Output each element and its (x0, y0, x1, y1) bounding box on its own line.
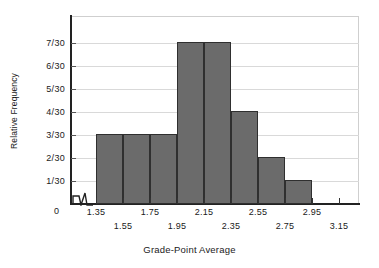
x-axis-title: Grade-Point Average (0, 244, 379, 255)
x-tick-label: 1.75 (141, 207, 160, 217)
y-tick-label: 3/30 (46, 130, 65, 140)
y-tick-mark (71, 43, 76, 44)
axis-break-icon (72, 192, 94, 206)
x-tick-label: 1.35 (87, 207, 106, 217)
x-tick-label: 2.95 (303, 207, 322, 217)
y-tick-mark (71, 89, 76, 90)
y-tick-mark (71, 66, 76, 67)
y-tick-label: 4/30 (46, 107, 65, 117)
x-tick-mark (123, 198, 124, 204)
x-tick-mark (204, 198, 205, 204)
bar (285, 180, 312, 204)
bar (258, 157, 285, 204)
y-tick-label: 1/30 (46, 176, 65, 186)
x-tick-mark (285, 198, 286, 204)
x-tick-label: 2.15 (195, 207, 214, 217)
y-tick-label: 6/30 (46, 61, 65, 71)
x-tick-mark (231, 198, 232, 204)
x-tick-label: 2.35 (222, 221, 241, 231)
x-tick-mark (177, 198, 178, 204)
x-tick-mark (339, 198, 340, 204)
y-tick-mark (71, 158, 76, 159)
bar (204, 42, 231, 204)
histogram-chart: Relative Frequency 1/302/303/304/305/306… (0, 0, 379, 268)
bar-series (96, 16, 312, 204)
x-tick-label: 1.55 (114, 221, 133, 231)
y-tick-mark (71, 181, 76, 182)
x-tick-label: 3.15 (330, 221, 349, 231)
x-tick-label: 2.55 (249, 207, 268, 217)
x-tick-mark (96, 198, 97, 204)
bar (177, 42, 204, 204)
x-tick-label: 1.95 (168, 221, 187, 231)
y-tick-mark (71, 112, 76, 113)
y-tick-label: 2/30 (46, 153, 65, 163)
y-tick-label: 7/30 (46, 38, 65, 48)
x-tick-mark (312, 198, 313, 204)
y-axis-title: Relative Frequency (7, 16, 21, 205)
y-origin-label: 0 (54, 206, 59, 216)
y-axis-title-text: Relative Frequency (9, 73, 19, 149)
y-tick-mark (71, 135, 76, 136)
bar (150, 134, 177, 204)
x-tick-label: 2.75 (276, 221, 295, 231)
y-tick-label: 5/30 (46, 84, 65, 94)
bar (231, 111, 258, 204)
bar (96, 134, 123, 204)
x-tick-mark (150, 198, 151, 204)
x-tick-mark (258, 198, 259, 204)
bar (123, 134, 150, 204)
